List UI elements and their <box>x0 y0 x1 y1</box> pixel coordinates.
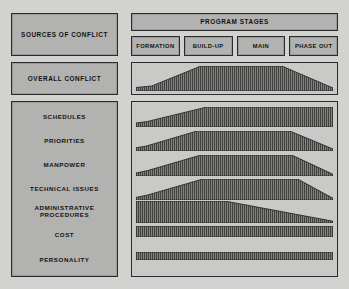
source-label-text-administrative-procedures: ADMINISTRATIVE PROCEDURES <box>12 205 117 219</box>
source-label-text-schedules: SCHEDULES <box>43 114 86 121</box>
area-band-manpower <box>136 155 333 176</box>
overall-conflict-plot <box>131 62 338 95</box>
stage-label-formation: FORMATION <box>136 43 174 49</box>
area-band-overall-conflict <box>136 66 333 91</box>
sources-detail-plot <box>131 101 338 277</box>
source-label-cost[interactable]: COST <box>12 226 117 244</box>
stage-chip-build-up[interactable]: BUILD-UP <box>184 36 233 56</box>
source-label-priorities[interactable]: PRIORITIES <box>12 130 117 152</box>
area-band-cost <box>136 226 333 237</box>
overall-conflict-label: OVERALL CONFLICT <box>28 75 101 82</box>
stage-chip-formation[interactable]: FORMATION <box>131 36 180 56</box>
area-band-priorities <box>136 131 333 151</box>
stage-label-build-up: BUILD-UP <box>193 43 224 49</box>
sources-of-conflict-title: SOURCES OF CONFLICT <box>21 31 108 38</box>
stage-chip-main[interactable]: MAIN <box>237 36 286 56</box>
source-label-text-personality: PERSONALITY <box>39 257 89 264</box>
source-label-personality[interactable]: PERSONALITY <box>12 250 117 270</box>
source-label-text-priorities: PRIORITIES <box>44 138 85 145</box>
area-band-administrative-procedures <box>136 201 333 223</box>
area-band-schedules <box>136 107 333 127</box>
program-stages-title: PROGRAM STAGES <box>200 18 269 25</box>
conflict-stages-diagram: SOURCES OF CONFLICT PROGRAM STAGES FORMA… <box>0 0 349 289</box>
stage-label-phase-out: PHASE OUT <box>295 43 332 49</box>
source-label-text-technical-issues: TECHNICAL ISSUES <box>30 186 99 193</box>
source-label-administrative-procedures[interactable]: ADMINISTRATIVE PROCEDURES <box>12 200 117 224</box>
program-stages-header: PROGRAM STAGES <box>131 13 338 31</box>
source-label-schedules[interactable]: SCHEDULES <box>12 106 117 128</box>
source-label-technical-issues[interactable]: TECHNICAL ISSUES <box>12 178 117 200</box>
source-label-text-cost: COST <box>55 232 74 239</box>
stage-label-main: MAIN <box>253 43 269 49</box>
overall-conflict-label-box: OVERALL CONFLICT <box>11 62 118 95</box>
source-label-manpower[interactable]: MANPOWER <box>12 154 117 176</box>
sources-list-panel: SCHEDULES PRIORITIES MANPOWER TECHNICAL … <box>11 101 118 277</box>
sources-of-conflict-header: SOURCES OF CONFLICT <box>11 13 118 56</box>
area-band-technical-issues <box>136 179 333 200</box>
source-label-text-manpower: MANPOWER <box>44 162 86 169</box>
area-band-personality <box>136 252 333 260</box>
program-stage-chip-row: FORMATION BUILD-UP MAIN PHASE OUT <box>131 36 338 56</box>
stage-chip-phase-out[interactable]: PHASE OUT <box>289 36 338 56</box>
